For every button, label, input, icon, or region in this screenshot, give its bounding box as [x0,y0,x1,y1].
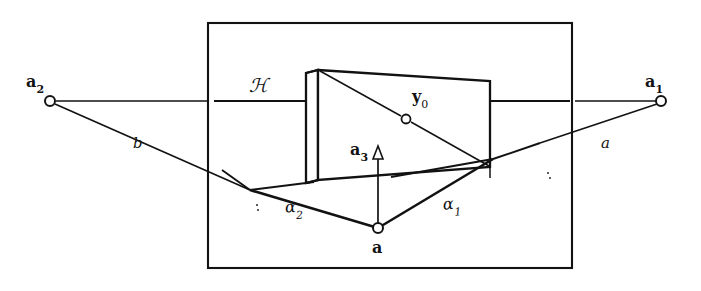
angle-mark-left-dot-2 [257,209,259,211]
ray-a [540,104,657,143]
point-marker-a1 [656,96,666,106]
angle-mark-right-dot-1 [547,172,549,174]
label-a3: a3 [350,142,368,161]
label-y0: y0 [412,89,428,108]
ray-b [55,104,250,190]
label-alpha1-base: α [442,194,454,214]
label-alpha1-sub: 1 [454,205,462,219]
label-hyperplane-H: ℋ [249,76,268,95]
ray-b-path [55,104,250,190]
label-a-vertex: a [372,240,382,256]
label-alpha2-base: α [284,197,296,217]
label-y0-base: y [412,87,421,106]
label-alpha2: α2 [285,199,304,219]
point-marker-a [373,223,383,233]
label-a2: a2 [26,74,44,93]
label-a1-sub: 1 [655,83,663,96]
label-ray-a-base: a [601,134,610,152]
vector-a3 [373,146,383,224]
label-a2-sub: 2 [36,83,44,96]
box-left-depth-face [306,70,318,183]
geometric-figure: a2 a1 a3 a y0 ℋ α1 α2 a b [0,0,701,291]
ground-edge-alpha2 [250,190,378,228]
label-a1: a1 [645,74,663,93]
box-solid [306,70,490,183]
label-a3-sub: 3 [360,151,368,164]
angle-mark-right-dot-2 [549,177,551,179]
ground-back-edge-left-of-box [250,182,314,190]
label-a2-base: a [26,72,36,91]
label-a1-base: a [645,72,655,91]
label-y0-sub: 0 [421,98,428,111]
label-a-vertex-base: a [372,238,382,257]
ground-far-edge-right [493,143,540,159]
label-a3-base: a [350,140,360,159]
label-ray-a: a [601,136,610,151]
ray-a-path [540,104,657,143]
point-marker-y0 [402,115,411,124]
label-ray-b: b [133,136,143,151]
angle-mark-left-dot-1 [256,204,258,206]
label-ray-b-base: b [133,134,143,152]
label-alpha1: α1 [442,195,461,216]
label-alpha2-sub: 2 [296,209,304,222]
label-hyperplane-H-base: ℋ [249,74,268,96]
point-marker-a2 [45,96,55,106]
